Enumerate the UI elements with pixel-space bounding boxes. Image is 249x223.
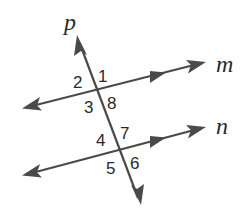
- arrowhead-p-top-icon: [74, 35, 87, 56]
- angle-label-1: 1: [98, 67, 107, 86]
- line-label-n: n: [216, 113, 228, 139]
- parallel-lines-transversal-diagram: p m n 1 2 3 8 4 7 5 6: [0, 0, 249, 223]
- angle-label-3: 3: [84, 98, 93, 117]
- parallel-marker-n-icon: [150, 136, 166, 148]
- angle-label-6: 6: [130, 154, 139, 173]
- line-p: [74, 35, 144, 205]
- line-label-p: p: [62, 9, 76, 35]
- arrowhead-p-bottom-icon: [131, 184, 144, 205]
- angle-label-5: 5: [106, 159, 115, 178]
- angle-label-7: 7: [120, 124, 129, 143]
- line-label-m: m: [216, 51, 233, 77]
- parallel-marker-m-icon: [150, 71, 166, 83]
- angle-label-2: 2: [73, 73, 82, 92]
- angle-label-4: 4: [96, 131, 105, 150]
- angle-label-8: 8: [107, 94, 116, 113]
